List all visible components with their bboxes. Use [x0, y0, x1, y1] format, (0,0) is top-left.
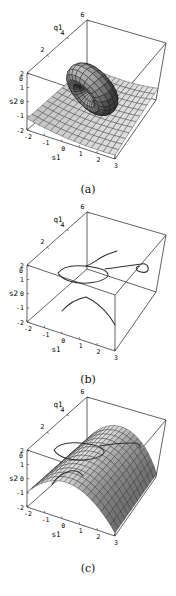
- tick-label: -2: [16, 319, 24, 327]
- figure-canvas: -2-10123-2-10120246s1s2q1 (a) -2-10123-2…: [0, 0, 176, 596]
- q1-axis-label: q1: [53, 215, 62, 224]
- plot-b: -2-10123-2-10120246s1s2q1: [9, 203, 166, 362]
- s2-axis-label: s2: [9, 474, 18, 483]
- page: -2-10123-2-10120246s1s2q1 (a) -2-10123-2…: [0, 0, 176, 596]
- tick-mark: [67, 230, 69, 231]
- s1-axis-label: s1: [51, 530, 60, 539]
- tick-label: 0: [19, 75, 23, 83]
- tick-label: 0: [20, 475, 24, 483]
- tick-label: -1: [42, 516, 50, 524]
- tick-mark: [47, 55, 49, 56]
- tick-label: 1: [20, 84, 24, 92]
- tick-label: -1: [16, 304, 24, 312]
- tick-label: 3: [114, 162, 118, 170]
- tick-label: 2: [41, 423, 45, 431]
- tick-label: 3: [114, 539, 118, 547]
- tick-label: 0: [61, 337, 65, 345]
- constraint-curves: [58, 251, 148, 325]
- middle-loop: [58, 266, 108, 283]
- tick-label: -2: [24, 325, 32, 333]
- tick-label: -2: [16, 504, 24, 512]
- caption-b: (b): [80, 373, 96, 386]
- q1-axis-label: q1: [53, 23, 62, 32]
- tick-label: 6: [81, 11, 85, 19]
- axis-ticks-labels: -2-10123-2-10120246s1s2q1: [9, 203, 118, 362]
- tick-label: 0: [61, 522, 65, 530]
- tick-label: -2: [24, 510, 32, 518]
- tick-label: 0: [19, 452, 23, 460]
- q1-axis-label: q1: [53, 400, 62, 409]
- tick-label: -1: [16, 489, 24, 497]
- caption-c: (c): [81, 562, 96, 575]
- lower-arc: [62, 297, 115, 325]
- caption-a: (a): [80, 183, 95, 196]
- right-curve-with-end-loop: [105, 264, 148, 273]
- tick-label: 0: [20, 290, 24, 298]
- upper-s-curve: [86, 251, 117, 266]
- tick-label: 2: [96, 533, 100, 541]
- s2-axis-label: s2: [9, 97, 18, 106]
- plot-a: -2-10123-2-10120246s1s2q1: [9, 11, 166, 170]
- tick-label: 1: [79, 527, 83, 535]
- tick-label: 2: [41, 238, 45, 246]
- tick-label: -1: [42, 139, 50, 147]
- tick-label: 1: [79, 342, 83, 350]
- tick-label: -2: [24, 133, 32, 141]
- tick-mark: [47, 247, 49, 248]
- tick-label: 3: [114, 354, 118, 362]
- tick-label: 2: [96, 348, 100, 356]
- s1-axis-label: s1: [51, 153, 60, 162]
- tick-label: -1: [42, 331, 50, 339]
- tick-label: 1: [79, 150, 83, 158]
- tick-label: 6: [81, 203, 85, 211]
- tick-label: 1: [20, 461, 24, 469]
- tick-label: 0: [61, 145, 65, 153]
- tick-label: -1: [16, 112, 24, 120]
- tick-label: 0: [20, 98, 24, 106]
- tick-mark: [67, 38, 69, 39]
- tick-label: -2: [16, 127, 24, 135]
- tick-label: 1: [20, 276, 24, 284]
- tick-label: 6: [81, 388, 85, 396]
- s2-axis-label: s2: [9, 289, 18, 298]
- s1-axis-label: s1: [51, 345, 60, 354]
- tick-label: 0: [19, 267, 23, 275]
- plot-c: -2-10123-2-10120246s1s2q1: [9, 388, 166, 547]
- tick-mark: [67, 415, 69, 416]
- tick-mark: [47, 432, 49, 433]
- tick-label: 2: [96, 156, 100, 164]
- tick-label: 2: [41, 46, 45, 54]
